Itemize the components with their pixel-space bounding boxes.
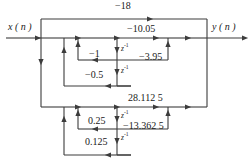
output-label: y ( n ) bbox=[212, 22, 236, 32]
path-feedforward-minus18 bbox=[41, 19, 207, 38]
coefficient-label-section1-a2: −0.5 bbox=[85, 70, 103, 80]
coefficient-label-section2-a2: 0.125 bbox=[85, 137, 108, 147]
path-output-summing-rail bbox=[188, 19, 207, 107]
path-branch-to-section2 bbox=[41, 38, 78, 107]
coefficient-label-section1-gain: −10.05 bbox=[127, 24, 155, 34]
coefficient-label-section1-b1: −3.95 bbox=[139, 52, 162, 62]
coefficient-label-feedforward-top: −18 bbox=[115, 1, 131, 11]
input-label: x ( n ) bbox=[8, 22, 32, 32]
delay-label-section1-first: z-1 bbox=[121, 43, 129, 52]
delay-label-section2-first: z-1 bbox=[121, 110, 129, 119]
coefficient-label-section2-gain: 28.112 5 bbox=[128, 93, 163, 103]
coefficient-label-section2-b1: −13.362 5 bbox=[123, 121, 164, 131]
figure-canvas: x ( n ) y ( n ) −18 −10.05 −1 −3.95 −0.5… bbox=[0, 0, 251, 168]
coefficient-label-section2-a1: 0.25 bbox=[88, 116, 106, 126]
delay-label-section2-second: z-1 bbox=[121, 132, 129, 141]
delay-label-section1-second: z-1 bbox=[121, 65, 129, 74]
coefficient-label-section1-a1: −1 bbox=[89, 49, 100, 59]
